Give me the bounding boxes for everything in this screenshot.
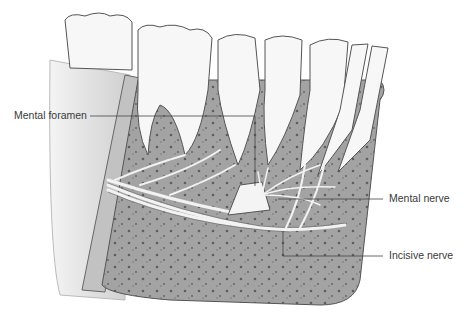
label-mental-nerve: Mental nerve (389, 192, 450, 204)
label-mental-foramen: Mental foramen (14, 109, 87, 121)
label-incisive-nerve: Incisive nerve (389, 249, 453, 261)
molar-1 (65, 13, 132, 70)
mandible-illustration (0, 0, 473, 325)
